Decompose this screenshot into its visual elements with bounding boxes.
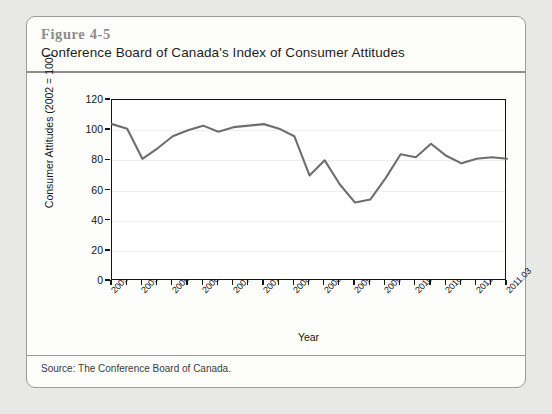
y-tick-label: 60 (77, 185, 103, 196)
y-tick-mark (105, 279, 110, 280)
y-tick-label: 80 (77, 154, 103, 165)
y-tick-label: 40 (77, 215, 103, 226)
source-divider (27, 355, 525, 356)
y-tick-mark (105, 128, 110, 129)
y-tick-mark (105, 189, 110, 190)
plot-area (111, 99, 506, 280)
figure-title: Conference Board of Canada's Index of Co… (41, 45, 405, 60)
figure-card: Figure 4-5 Conference Board of Canada's … (26, 16, 526, 388)
consumer-attitudes-line-series (112, 100, 507, 281)
y-tick-mark (105, 159, 110, 160)
y-tick-label: 0 (77, 275, 103, 286)
y-tick-mark (105, 98, 110, 99)
x-axis-title: Year (111, 331, 506, 343)
y-axis-title: Consumer Attitudes (2002 = 100) (43, 36, 55, 226)
y-tick-label: 20 (77, 245, 103, 256)
y-tick-label: 120 (77, 94, 103, 105)
y-tick-mark (105, 249, 110, 250)
y-tick-mark (105, 219, 110, 220)
source-note: Source: The Conference Board of Canada. (41, 363, 231, 374)
chart-region: Consumer Attitudes (2002 = 100) 02040608… (27, 73, 525, 355)
y-tick-label: 100 (77, 124, 103, 135)
x-tick-label: 2011.03 (504, 266, 533, 295)
